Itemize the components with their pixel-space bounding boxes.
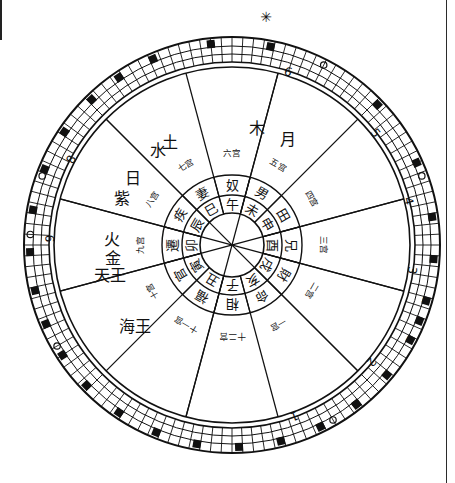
planet-label-mercury: 水 [150, 141, 166, 160]
lunar-mansion-label: 尾 [82, 379, 93, 390]
house-ordinal: 七宫 [176, 156, 197, 174]
house-ordinal: 五宫 [268, 156, 289, 174]
ring-circle-marker [419, 173, 425, 179]
house-label: 遷 [165, 239, 180, 252]
house-ordinal: 三宫 [319, 236, 329, 254]
degree-number: 8 [63, 153, 79, 166]
astrology-wheel: 相十二宫命一宫財二宫兄三宫田四宫男五宫奴六宫妻七宫疾八宫遷九宫官十宫福十一宫 子… [0, 0, 455, 483]
top-star-mark: ✳ [260, 9, 272, 25]
earthly-branch-label: 午 [226, 197, 239, 212]
planet-label-venus: 金 [105, 249, 121, 268]
lunar-mansion-label: 星 [114, 73, 124, 84]
ring-circle-marker [39, 173, 45, 179]
house-ordinal: 十一宫 [172, 314, 200, 336]
house-label: 兄 [284, 239, 299, 252]
lunar-mansion-label: 危 [315, 421, 325, 432]
lunar-mansion-label: 心 [58, 349, 69, 359]
chart-page: 相十二宫命一宫財二宫兄三宫田四宫男五宫奴六宫妻七宫疾八宫遷九宫官十宫福十一宫 子… [0, 0, 455, 483]
lunar-mansion-label: 張 [87, 95, 98, 106]
house-label: 奴 [226, 178, 239, 193]
earthly-branch-label: 子 [226, 278, 239, 293]
lunar-mansion-label: 胃 [428, 255, 436, 263]
house-ordinal: 九宫 [135, 236, 145, 254]
house-ordinal: 一宫 [268, 316, 289, 334]
house-label: 相 [226, 297, 239, 312]
planet-label-mars: 火 [104, 230, 120, 249]
house-ordinal: 十二宫 [219, 332, 246, 342]
lunar-mansion-label: 亢 [26, 248, 35, 255]
lunar-mansion-label: 翼 [60, 127, 71, 137]
house-ordinal: 六宫 [223, 148, 241, 158]
planet-label-jupiter: 木 [249, 119, 265, 138]
earthly-branch-label: 酉 [265, 239, 280, 252]
planet-label-neptune: 海王 [119, 317, 151, 336]
planet-label-sun: 日 [125, 169, 141, 188]
house-ordinal: 十宫 [143, 281, 161, 302]
house-ordinal: 四宫 [303, 189, 321, 210]
house-ordinal: 八宫 [143, 189, 161, 210]
lunar-mansion-label: 觜 [427, 213, 437, 221]
top-star-mark: ✳ [260, 9, 272, 25]
degree-number: 9 [43, 235, 57, 243]
lunar-mansion-label: 女 [235, 442, 242, 451]
house-ordinal: 二宫 [303, 281, 321, 302]
earthly-branch-label: 卯 [184, 239, 199, 252]
lunar-mansion-label: 箕 [114, 406, 125, 417]
planet-label-moon: 月 [280, 130, 296, 149]
lunar-mansion-label: 昴 [371, 100, 382, 111]
planet-label-purple-star: 紫 [114, 189, 130, 208]
lunar-mansion-label: 奎 [404, 334, 415, 344]
planet-label-uranus: 天王 [94, 266, 126, 285]
